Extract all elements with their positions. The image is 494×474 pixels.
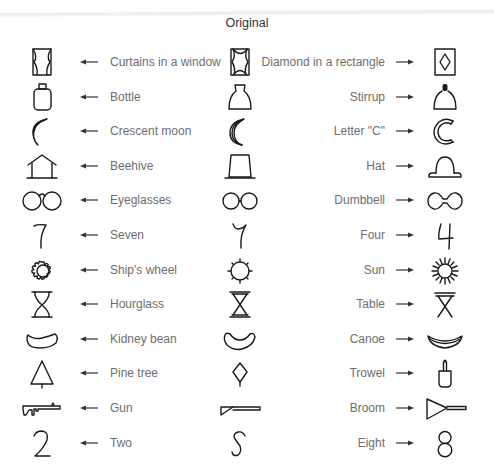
figure-row: Bottle Stirrup [0,80,494,114]
left-label: Beehive [110,159,153,173]
figure-row: Hourglass Table [0,287,494,321]
figure-row: Crescent moon Letter "C" [0,114,494,148]
left-label: Gun [110,401,133,415]
left-label: Eyeglasses [110,193,171,207]
arrow-left-icon [79,332,99,346]
curtains-diamond-ambiguous-icon [220,47,260,77]
arrow-left-icon [79,159,99,173]
right-label: Four [360,228,385,242]
eyeglasses-dumbbell-ambiguous-icon [220,185,260,215]
right-label: Canoe [350,332,385,346]
arrow-right-icon [395,263,415,277]
arrow-left-icon [79,297,99,311]
arrow-left-icon [79,124,99,138]
arrow-left-icon [79,263,99,277]
right-label: Table [356,297,385,311]
gun-broom-ambiguous-icon [220,393,260,423]
figure-title: Original [0,16,494,30]
beehive-hat-ambiguous-icon [220,151,260,181]
right-label: Sun [364,263,385,277]
ships-wheel-icon [22,255,62,285]
arrow-left-icon [79,90,99,104]
diamond-in-rectangle-icon [425,47,465,77]
hourglass-icon [22,289,62,319]
sun-icon [425,255,465,285]
arrow-right-icon [395,228,415,242]
left-label: Bottle [110,90,141,104]
figure-row: Pine tree Trowel [0,356,494,390]
bottle-stirrup-ambiguous-icon [220,82,260,112]
eyeglasses-icon [22,185,62,215]
arrow-right-icon [395,159,415,173]
trowel-icon [425,358,465,388]
hourglass-table-ambiguous-icon [220,289,260,319]
arrow-left-icon [79,193,99,207]
beehive-icon [22,151,62,181]
figure-row: Beehive Hat [0,149,494,183]
crescent-moon-icon [22,116,62,146]
moon-letter-c-ambiguous-icon [220,116,260,146]
right-label: Diamond in a rectangle [262,55,385,69]
right-label: Trowel [349,366,385,380]
left-label: Curtains in a window [110,55,221,69]
left-label: Hourglass [110,297,164,311]
canoe-icon [425,324,465,354]
four-icon [425,220,465,250]
gun-icon [22,393,62,423]
right-label: Broom [350,401,385,415]
left-label: Two [110,436,132,450]
figure-row: Kidney bean Canoe [0,322,494,356]
curtains-in-window-icon [22,47,62,77]
right-label: Dumbbell [334,193,385,207]
left-label: Kidney bean [110,332,177,346]
right-label: Letter "C" [334,124,385,138]
arrow-left-icon [79,228,99,242]
right-label: Hat [366,159,385,173]
arrow-right-icon [395,332,415,346]
letter-c-icon [425,116,465,146]
two-icon [22,428,62,458]
arrow-left-icon [79,401,99,415]
arrow-right-icon [395,90,415,104]
seven-icon [22,220,62,250]
left-label: Crescent moon [110,124,191,138]
bottle-icon [22,82,62,112]
arrow-left-icon [79,55,99,69]
kidney-bean-icon [22,324,62,354]
arrow-left-icon [79,366,99,380]
seven-four-ambiguous-icon [220,220,260,250]
two-eight-ambiguous-icon [220,428,260,458]
wheel-sun-ambiguous-icon [220,255,260,285]
table-icon [425,289,465,319]
right-label: Stirrup [350,90,385,104]
arrow-right-icon [395,401,415,415]
bean-canoe-ambiguous-icon [220,324,260,354]
figure-row: Eyeglasses Dumbbell [0,183,494,217]
figure-row: Curtains in a window Diamond in a rectan… [0,45,494,79]
arrow-right-icon [395,55,415,69]
left-label: Pine tree [110,366,158,380]
arrow-right-icon [395,366,415,380]
arrow-right-icon [395,193,415,207]
pine-tree-icon [22,358,62,388]
arrow-right-icon [395,124,415,138]
right-label: Eight [358,436,385,450]
figure-row: Two Eight [0,426,494,460]
arrow-right-icon [395,297,415,311]
tree-trowel-ambiguous-icon [220,358,260,388]
broom-icon [425,393,465,423]
figure-row: Ship's wheel Sun [0,253,494,287]
stirrup-icon [425,82,465,112]
figure-row: Seven Four [0,218,494,252]
eight-icon [425,428,465,458]
left-label: Seven [110,228,144,242]
left-label: Ship's wheel [110,263,177,277]
dumbbell-icon [425,185,465,215]
arrow-left-icon [79,436,99,450]
hat-icon [425,151,465,181]
arrow-right-icon [395,436,415,450]
figure-row: Gun Broom [0,391,494,425]
